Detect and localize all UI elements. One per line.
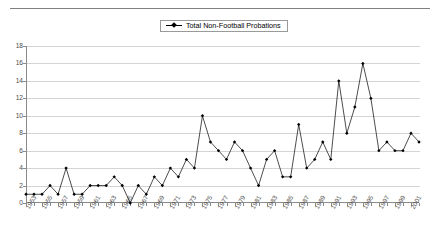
gridline [27, 186, 420, 187]
y-axis-tick-mark [23, 151, 26, 152]
y-axis-tick-mark [23, 63, 26, 64]
gridline [27, 151, 420, 152]
chart-plot-wrapper: 024681012141618 195319551957195919611963… [0, 0, 440, 240]
y-axis-tick-label: 16 [3, 60, 23, 67]
y-axis-tick-mark [23, 81, 26, 82]
y-axis-tick-mark [23, 168, 26, 169]
y-axis-tick-label: 12 [3, 95, 23, 102]
x-axis-labels: 1953195519571959196119631965196719691971… [0, 205, 440, 240]
y-axis-tick-label: 4 [3, 165, 23, 172]
y-axis-tick-mark [23, 46, 26, 47]
gridline [27, 133, 420, 134]
gridline [27, 98, 420, 99]
y-axis-tick-label: 2 [3, 183, 23, 190]
plot-area [26, 46, 419, 203]
y-axis-tick-mark [23, 116, 26, 117]
y-axis-tick-label: 10 [3, 113, 23, 120]
gridline [27, 168, 420, 169]
y-axis-tick-label: 6 [3, 148, 23, 155]
y-axis-tick-mark [23, 133, 26, 134]
gridline [27, 46, 420, 47]
gridline [27, 116, 420, 117]
y-axis-tick-mark [23, 98, 26, 99]
gridline [27, 63, 420, 64]
y-axis-tick-label: 18 [3, 43, 23, 50]
y-axis-tick-label: 14 [3, 78, 23, 85]
gridline [27, 81, 420, 82]
y-axis-tick-label: 8 [3, 130, 23, 137]
y-axis-tick-mark [23, 186, 26, 187]
